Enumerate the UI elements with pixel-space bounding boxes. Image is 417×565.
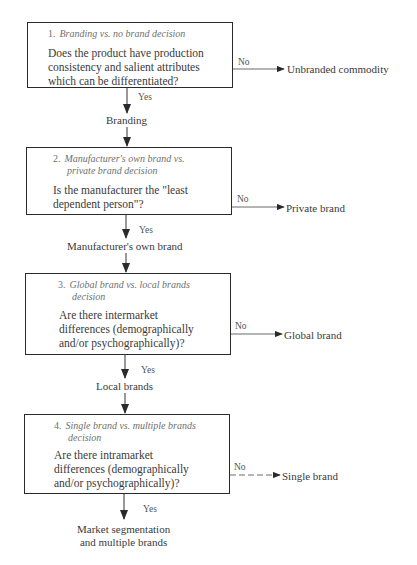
no-label-4: No — [234, 461, 246, 474]
decision-box-1: 1.Branding vs. no brand decision Does th… — [27, 22, 233, 88]
yes-label-1: Yes — [138, 91, 152, 104]
decision-question-2: Is the manufacturer the "least dependent… — [53, 183, 188, 211]
decision-title-3: 3.Global brand vs. local brands decision — [58, 279, 190, 303]
outcome-local-brands: Local brands — [96, 380, 153, 393]
yes-label-2: Yes — [139, 224, 153, 237]
no-label-2: No — [237, 193, 249, 206]
decision-title-1: 1.Branding vs. no brand decision — [48, 28, 185, 40]
yes-label-4: Yes — [143, 503, 157, 516]
decision-question-3: Are there intermarket differences (demog… — [59, 308, 194, 350]
decision-question-4: Are there intramarket differences (demog… — [54, 448, 189, 490]
outcome-branding: Branding — [106, 114, 147, 127]
decision-box-3: 3.Global brand vs. local brands decision… — [25, 273, 231, 355]
outcome-single-brand: Single brand — [282, 470, 338, 483]
decision-question-1: Does the product have production consist… — [48, 46, 204, 88]
outcome-global-brand: Global brand — [284, 329, 342, 342]
decision-title-4: 4.Single brand vs. multiple brands decis… — [54, 420, 196, 444]
yes-label-3: Yes — [141, 364, 155, 377]
outcome-unbranded-commodity: Unbranded commodity — [287, 63, 389, 76]
decision-box-4: 4.Single brand vs. multiple brands decis… — [24, 414, 230, 494]
decision-title-2: 2.Manufacturer's own brand vs. private b… — [53, 153, 185, 177]
no-label-1: No — [238, 56, 250, 69]
no-label-3: No — [235, 320, 247, 333]
outcome-manufacturers-own-brand: Manufacturer's own brand — [67, 240, 183, 253]
decision-box-2: 2.Manufacturer's own brand vs. private b… — [26, 147, 232, 215]
outcome-market-segmentation: Market segmentation and multiple brands — [77, 523, 170, 549]
outcome-private-brand: Private brand — [286, 202, 345, 215]
